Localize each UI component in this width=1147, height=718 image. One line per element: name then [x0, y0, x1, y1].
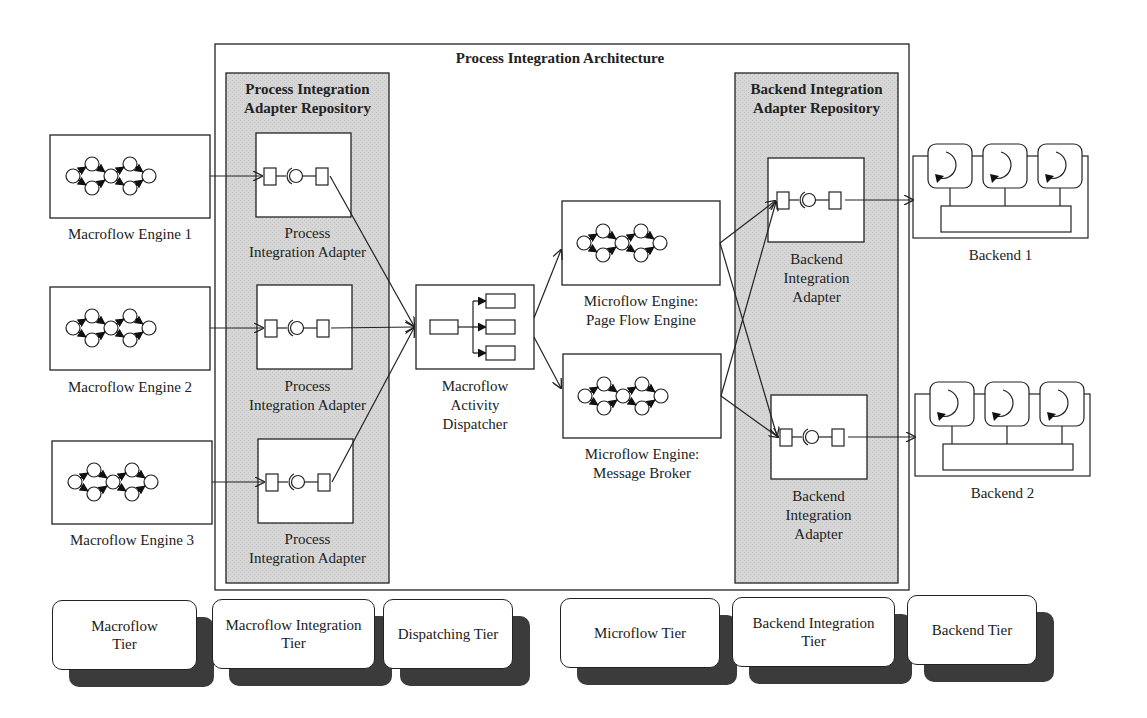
microflow-engine-message-broker-box — [563, 354, 721, 438]
process-adapter-1-box — [256, 133, 351, 217]
process-adapter-2-box — [257, 285, 352, 369]
macroflow-engine-3-label: Macroflow Engine 3 — [42, 531, 222, 550]
macroflow-engine-3-box — [52, 441, 212, 524]
backend-adapter-2-label: Backend Integration Adapter — [737, 487, 900, 544]
process-adapter-3-box — [258, 439, 353, 523]
process-adapter-3-label: Process Integration Adapter — [226, 530, 389, 568]
process-adapter-2-label: Process Integration Adapter — [226, 377, 389, 415]
dispatcher-label: Macroflow Activity Dispatcher — [405, 377, 545, 434]
backend-1-icon — [913, 144, 1088, 238]
process-repository-title: Process Integration Adapter Repository — [226, 80, 389, 118]
macroflow-engine-1-box — [50, 135, 210, 218]
macroflow-engine-1-label: Macroflow Engine 1 — [40, 225, 220, 244]
microflow-engine-page-flow-box — [562, 201, 720, 285]
backend-1-label: Backend 1 — [913, 246, 1088, 265]
process-adapter-1-label: Process Integration Adapter — [226, 224, 389, 262]
backend-2-icon — [915, 382, 1090, 476]
backend-adapter-1-label: Backend Integration Adapter — [735, 250, 898, 307]
microflow-engine-message-broker-label: Microflow Engine: Message Broker — [551, 445, 733, 483]
adapter-icon — [264, 168, 328, 185]
macroflow-engine-2-box — [50, 287, 210, 370]
microflow-engine-page-flow-label: Microflow Engine: Page Flow Engine — [550, 292, 732, 330]
backend-2-label: Backend 2 — [915, 484, 1090, 503]
diagram-title: Process Integration Architecture — [380, 49, 740, 68]
backend-repository-title: Backend Integration Adapter Repository — [735, 80, 898, 118]
dispatcher-box — [416, 285, 534, 369]
macroflow-engine-2-label: Macroflow Engine 2 — [40, 378, 220, 397]
